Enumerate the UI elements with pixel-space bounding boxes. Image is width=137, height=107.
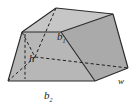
label-bottom-base-subscript: 2 bbox=[50, 97, 53, 103]
trapezoidal-prism-figure: b1 b2 h w bbox=[0, 0, 137, 107]
label-height: h bbox=[29, 52, 35, 64]
prism-illustration: b1 b2 h w bbox=[0, 0, 137, 107]
label-top-base-subscript: 1 bbox=[63, 38, 66, 44]
label-width: w bbox=[118, 76, 124, 86]
